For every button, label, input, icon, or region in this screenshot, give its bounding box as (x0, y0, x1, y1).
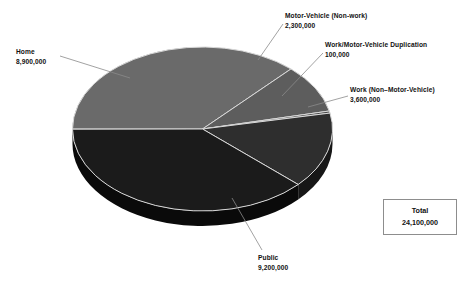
slice-label-home-name: Home (16, 47, 46, 57)
slice-label-motor-vehicle-value: 2,300,000 (285, 21, 367, 31)
leader-line-motor-vehicle (258, 24, 283, 60)
slice-label-work: Work (Non–Motor-Vehicle) 3,600,000 (350, 85, 435, 104)
slice-label-motor-vehicle-name: Motor-Vehicle (Non-work) (285, 11, 367, 21)
slice-label-home: Home 8,900,000 (16, 47, 46, 66)
pie-top-face-group (73, 47, 333, 211)
slice-label-public-value: 9,200,000 (258, 263, 288, 273)
slice-label-duplication-name: Work/Motor-Vehicle Duplication (325, 40, 427, 50)
slice-label-public-name: Public (258, 253, 288, 263)
pie-chart-figure: Home 8,900,000 Motor-Vehicle (Non-work) … (0, 0, 464, 286)
total-box: Total 24,100,000 (383, 199, 457, 235)
slice-label-public: Public 9,200,000 (258, 253, 288, 272)
slice-label-work-name: Work (Non–Motor-Vehicle) (350, 85, 435, 95)
slice-label-duplication: Work/Motor-Vehicle Duplication 100,000 (325, 40, 427, 59)
total-box-title: Total (412, 205, 429, 217)
slice-label-work-value: 3,600,000 (350, 95, 435, 105)
slice-label-duplication-value: 100,000 (325, 50, 427, 60)
slice-label-home-value: 8,900,000 (16, 57, 46, 67)
total-box-value: 24,100,000 (402, 217, 438, 229)
slice-label-motor-vehicle: Motor-Vehicle (Non-work) 2,300,000 (285, 11, 367, 30)
